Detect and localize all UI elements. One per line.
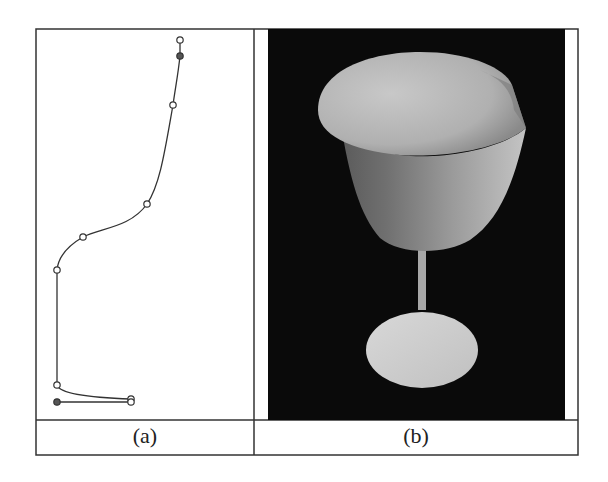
control-point-open (80, 234, 86, 240)
figure-canvas (0, 0, 608, 482)
control-point-open (177, 37, 183, 43)
caption-b: (b) (254, 425, 578, 447)
control-point-open (144, 201, 150, 207)
goblet-render-panel (268, 29, 565, 420)
profile-curve-panel (54, 37, 183, 405)
control-points (54, 37, 183, 405)
control-point-open (54, 382, 60, 388)
control-point-filled (177, 53, 183, 59)
goblet-stem (418, 250, 426, 310)
caption-a: (a) (36, 425, 254, 447)
control-point-open (128, 399, 134, 405)
control-point-open (170, 102, 176, 108)
figure: (a) (b) (0, 0, 608, 482)
control-point-filled (54, 399, 60, 405)
control-point-open (54, 267, 60, 273)
profile-curve (57, 40, 180, 399)
goblet-base (366, 312, 478, 388)
